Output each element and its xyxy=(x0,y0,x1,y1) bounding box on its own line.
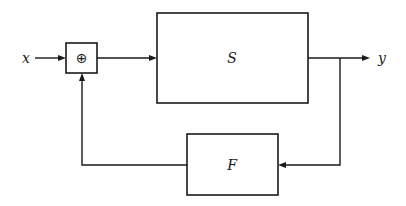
output-arrowhead-icon xyxy=(362,55,370,61)
block-diagram: x ⊕ S y F xyxy=(0,0,406,206)
input-label: x xyxy=(22,50,30,66)
forward-block-label: S xyxy=(227,50,237,66)
input-arrowhead-icon xyxy=(58,55,66,61)
summing-junction-symbol: ⊕ xyxy=(76,50,88,66)
feedback-in-arrowhead-icon xyxy=(278,162,286,168)
sum-to-s-arrowhead-icon xyxy=(149,55,157,61)
feedback-block-label: F xyxy=(226,157,238,173)
output-label: y xyxy=(377,50,387,66)
feedback-return-arrowhead-icon xyxy=(79,73,85,81)
